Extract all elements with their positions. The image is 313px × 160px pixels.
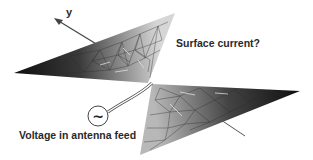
surface-current-label: Surface current? <box>176 37 260 49</box>
y-axis-arrow <box>54 18 98 45</box>
feed-line <box>108 83 152 112</box>
upper-wing <box>14 13 175 83</box>
sine-wave-icon: ~ <box>88 106 108 126</box>
lower-wing <box>140 84 300 155</box>
voltage-feed-label: Voltage in antenna feed <box>19 129 136 141</box>
y-axis-label: y <box>66 6 72 18</box>
antenna-diagram: ~ y Surface current? Voltage in antenna … <box>0 0 313 160</box>
